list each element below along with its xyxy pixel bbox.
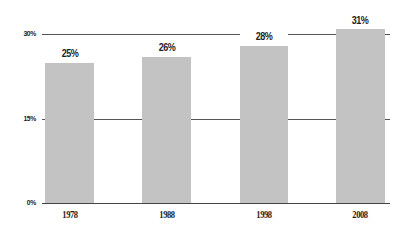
bar-1978 <box>45 63 94 203</box>
x-tick-2008: 2008 <box>339 209 382 220</box>
x-tick-1978: 1978 <box>49 209 92 220</box>
data-label-1978: 25% <box>50 47 91 59</box>
data-label-1998: 28% <box>244 30 285 42</box>
y-tick-15: 15% <box>11 114 37 123</box>
y-tick-0: 0% <box>11 198 37 207</box>
y-tick-30: 30% <box>11 29 37 38</box>
x-tick-1988: 1988 <box>146 209 189 220</box>
bar-1998 <box>240 46 288 203</box>
bar-2008 <box>336 29 385 203</box>
bar-chart: 30% 15% 0% 25% 26% 28% 31% 1978 1988 199… <box>0 0 412 234</box>
bar-1988 <box>142 57 191 203</box>
data-label-2008: 31% <box>340 14 381 26</box>
x-tick-1998: 1998 <box>243 209 286 220</box>
data-label-1988: 26% <box>147 41 188 53</box>
x-axis-baseline <box>42 203 390 204</box>
